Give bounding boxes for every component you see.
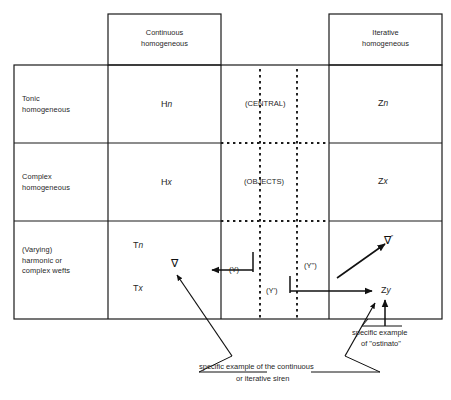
nabla-primed-mark: ″ — [391, 234, 393, 240]
row-header-tonic: Tonic homogeneous — [22, 94, 70, 115]
nabla-icon: ∇ — [171, 258, 178, 269]
column-header-continuous: Continuous homogeneous — [108, 28, 221, 49]
siren-caption-bracket-right — [345, 356, 380, 372]
cell-complex-iterative: Zx — [378, 176, 388, 186]
row-header-complex-line1: Complex — [22, 172, 52, 181]
annotation-ostinato-line1: specific example — [352, 328, 407, 337]
nabla-primed-icon: ∇″ — [384, 232, 393, 246]
nabla-primed-glyph: ∇ — [384, 234, 391, 246]
cell-tonic-iterative: Zn — [378, 98, 388, 108]
diagram-canvas: Continuous homogeneous Iterative homogen… — [0, 0, 451, 400]
row-header-tonic-line1: Tonic — [22, 94, 40, 103]
column-header-iterative-line1: Iterative — [372, 28, 398, 37]
column-header-iterative: Iterative homogeneous — [329, 28, 442, 49]
row-header-varying: (Varying) harmonic or complex wefts — [22, 245, 70, 277]
annotation-siren-line2: or iterative siren — [236, 374, 289, 383]
cell-complex-central: (OBJECTS) — [244, 177, 284, 187]
row-header-complex-line2: homogeneous — [22, 183, 70, 192]
annotation-siren-line1: specific example of the continuous — [199, 362, 314, 371]
column-header-continuous-line1: Continuous — [146, 28, 183, 37]
column-header-iterative-line2: homogeneous — [362, 39, 409, 48]
annotation-siren: specific example of the continuous — [199, 362, 314, 373]
row-header-varying-line2: harmonic or — [22, 256, 62, 265]
flow-label-y: (Y) — [229, 265, 239, 275]
annotation-ostinato: specific example — [352, 328, 407, 339]
arrow-ydoubleprime-to-nabla-primed — [337, 244, 385, 278]
cell-complex-continuous: Hx — [161, 177, 172, 187]
cell-varying-continuous-bottom: Tx — [133, 283, 143, 293]
leader-siren-to-nabla — [177, 275, 232, 356]
row-header-complex: Complex homogeneous — [22, 172, 70, 193]
row-header-tonic-line2: homogeneous — [22, 105, 70, 114]
annotation-siren-continued: or iterative siren — [236, 374, 289, 385]
column-header-continuous-line2: homogeneous — [141, 39, 188, 48]
flow-label-y-prime: (Y') — [266, 286, 278, 296]
annotation-ostinato-continued: of "ostinato" — [361, 339, 401, 350]
cell-varying-iterative: Zy — [381, 285, 391, 295]
cell-tonic-central: (CENTRAL) — [245, 99, 286, 109]
annotation-ostinato-line2: of "ostinato" — [361, 339, 401, 348]
row-header-varying-line1: (Varying) — [22, 245, 52, 254]
cell-tonic-continuous: Hn — [161, 99, 172, 109]
row-header-varying-line3: complex wefts — [22, 266, 70, 275]
cell-varying-continuous-top: Tn — [133, 240, 143, 250]
flow-label-y-double-prime: (Y") — [304, 261, 317, 271]
